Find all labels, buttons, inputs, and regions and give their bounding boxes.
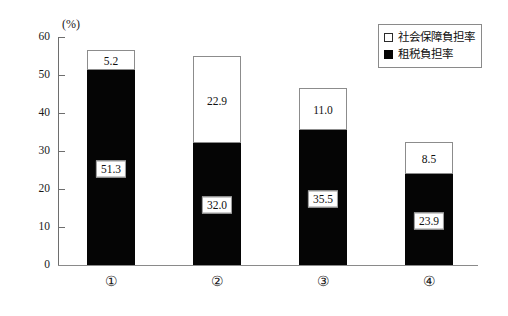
- legend-swatch-light-icon: [384, 33, 393, 42]
- legend-item-tax: 租税負担率: [384, 46, 475, 63]
- bar-1-label-social-security: 5.2: [104, 55, 118, 67]
- chart-legend: 社会保障負担率 租税負担率: [378, 24, 482, 68]
- legend-item-social-security: 社会保障負担率: [384, 29, 475, 46]
- bar-1-segment-tax: 51.3: [87, 70, 135, 265]
- y-axis-tick-10: [58, 227, 65, 228]
- bar-4-segment-tax: 23.9: [405, 174, 453, 265]
- y-axis-label-30: 30: [20, 145, 50, 157]
- x-axis-label-1: ①: [87, 274, 135, 290]
- legend-swatch-dark-icon: [384, 50, 393, 59]
- x-axis-line: [58, 265, 478, 266]
- bar-3-segment-social-security: 11.0: [299, 88, 347, 130]
- bar-2-segment-tax: 32.0: [193, 143, 241, 265]
- y-axis-label-0: 0: [20, 259, 50, 271]
- y-axis-tick-40: [58, 113, 65, 114]
- y-axis-label-20: 20: [20, 183, 50, 195]
- bar-2-label-tax: 32.0: [202, 197, 232, 214]
- bar-2-label-social-security: 22.9: [207, 95, 227, 107]
- bar-4-label-social-security: 8.5: [422, 153, 436, 165]
- bar-1-segment-social-security: 5.2: [87, 50, 135, 70]
- y-axis-label-40: 40: [20, 107, 50, 119]
- bar-1-label-tax: 51.3: [96, 160, 126, 177]
- y-axis-tick-20: [58, 189, 65, 190]
- bar-4-segment-social-security: 8.5: [405, 142, 453, 174]
- y-axis-unit-label: (%): [62, 18, 80, 30]
- legend-label-tax: 租税負担率: [398, 48, 453, 61]
- bar-3-label-social-security: 11.0: [313, 104, 333, 116]
- x-axis-label-4: ④: [405, 274, 453, 290]
- y-axis-tick-50: [58, 75, 65, 76]
- bar-3-segment-tax: 35.5: [299, 130, 347, 265]
- y-axis-tick-60: [58, 37, 65, 38]
- bar-2-segment-social-security: 22.9: [193, 56, 241, 143]
- y-axis-tick-30: [58, 151, 65, 152]
- legend-label-social-security: 社会保障負担率: [398, 31, 475, 44]
- x-axis-label-2: ②: [193, 274, 241, 290]
- stacked-bar-chart: (%) 60 50 40 30 20 10 0 5.2 51.3 22.9 32…: [0, 0, 508, 316]
- x-axis-label-3: ③: [299, 274, 347, 290]
- y-axis-label-50: 50: [20, 69, 50, 81]
- y-axis-label-10: 10: [20, 221, 50, 233]
- bar-4-label-tax: 23.9: [414, 212, 444, 229]
- y-axis-label-60: 60: [20, 31, 50, 43]
- bar-3-label-tax: 35.5: [308, 190, 338, 207]
